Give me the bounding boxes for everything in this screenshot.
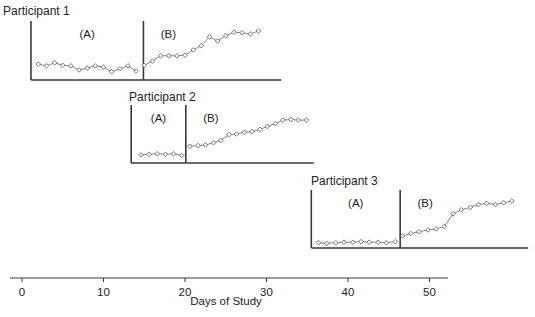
data-point-marker	[183, 53, 188, 58]
data-point-marker	[273, 121, 278, 126]
data-point-marker	[126, 64, 131, 69]
data-point-marker	[289, 117, 294, 122]
data-point-marker	[232, 30, 237, 35]
data-point-marker	[351, 240, 356, 245]
x-tick-label: 40	[342, 286, 355, 298]
data-point-marker	[468, 205, 473, 210]
phase-a-label: (A)	[348, 197, 364, 209]
panel-participant-1: Participant 1(A)(B)	[3, 4, 281, 80]
data-point-marker	[426, 228, 431, 233]
data-point-marker	[166, 54, 171, 59]
data-point-marker	[493, 202, 498, 207]
data-point-marker	[256, 29, 261, 34]
x-tick-label: 0	[19, 286, 25, 298]
data-point-marker	[163, 152, 168, 157]
data-point-marker	[281, 118, 286, 123]
data-point-marker	[265, 124, 270, 129]
data-point-marker	[258, 127, 263, 132]
data-point-marker	[400, 234, 405, 239]
data-point-marker	[215, 39, 220, 44]
data-point-marker	[44, 64, 49, 69]
series-phase-a	[36, 61, 138, 74]
series-phase-a	[139, 151, 184, 157]
data-point-marker	[510, 199, 515, 204]
phase-b-label: (B)	[417, 197, 433, 209]
data-point-marker	[134, 69, 139, 74]
data-point-marker	[158, 54, 163, 59]
data-point-marker	[248, 32, 253, 37]
x-tick-label: 50	[423, 286, 436, 298]
data-point-marker	[101, 65, 106, 70]
data-point-marker	[240, 31, 245, 36]
data-point-marker	[93, 64, 98, 69]
data-point-marker	[408, 231, 413, 236]
data-point-marker	[150, 59, 155, 64]
data-point-marker	[196, 143, 201, 148]
multiple-baseline-chart: Participant 1(A)(B)Participant 2(A)(B)Pa…	[0, 0, 535, 317]
data-point-marker	[147, 152, 152, 157]
data-point-marker	[118, 66, 123, 71]
data-point-marker	[250, 129, 255, 134]
x-tick-label: 30	[260, 286, 273, 298]
data-point-marker	[384, 240, 389, 245]
data-point-marker	[325, 241, 330, 246]
data-point-marker	[304, 118, 309, 123]
data-point-marker	[316, 240, 321, 245]
x-axis-title: Days of Study	[190, 295, 262, 307]
data-point-marker	[242, 130, 247, 135]
data-point-marker	[155, 151, 160, 156]
data-point-marker	[139, 153, 144, 158]
data-point-marker	[333, 240, 338, 245]
data-point-marker	[359, 239, 364, 244]
data-point-marker	[459, 207, 464, 212]
data-point-marker	[191, 48, 196, 53]
phase-b-label: (B)	[161, 28, 177, 40]
data-point-marker	[52, 61, 57, 66]
participant-label: Participant 3	[311, 174, 378, 188]
data-point-marker	[36, 62, 41, 67]
data-point-marker	[417, 229, 422, 234]
data-point-marker	[171, 151, 176, 156]
phase-a-label: (A)	[80, 28, 96, 40]
data-point-marker	[69, 64, 74, 69]
data-point-marker	[175, 54, 180, 59]
participant-label: Participant 2	[129, 90, 196, 104]
panel-participant-3: Participant 3(A)(B)	[311, 174, 528, 248]
data-point-marker	[179, 153, 184, 158]
data-point-marker	[484, 201, 489, 206]
data-point-marker	[376, 240, 381, 245]
data-point-marker	[188, 144, 193, 149]
data-point-marker	[393, 239, 398, 244]
data-point-marker	[234, 132, 239, 137]
phase-a-label: (A)	[151, 112, 167, 124]
data-point-marker	[77, 68, 82, 73]
data-point-marker	[85, 66, 90, 71]
panel-participant-2: Participant 2(A)(B)	[129, 90, 314, 163]
data-point-marker	[342, 240, 347, 245]
series-phase-a	[316, 239, 397, 245]
series-phase-b	[142, 29, 261, 68]
x-axis: 01020304050Days of Study	[10, 278, 448, 307]
data-point-marker	[223, 33, 228, 38]
x-tick-label: 10	[97, 286, 110, 298]
data-point-marker	[476, 202, 481, 207]
data-point-marker	[501, 200, 506, 205]
data-point-marker	[367, 240, 372, 245]
data-point-marker	[60, 63, 65, 68]
data-point-marker	[109, 69, 114, 74]
data-point-marker	[203, 143, 208, 148]
data-point-marker	[434, 227, 439, 232]
phase-b-label: (B)	[203, 112, 219, 124]
data-point-marker	[296, 118, 301, 123]
data-point-marker	[211, 140, 216, 145]
participant-label: Participant 1	[3, 4, 70, 18]
